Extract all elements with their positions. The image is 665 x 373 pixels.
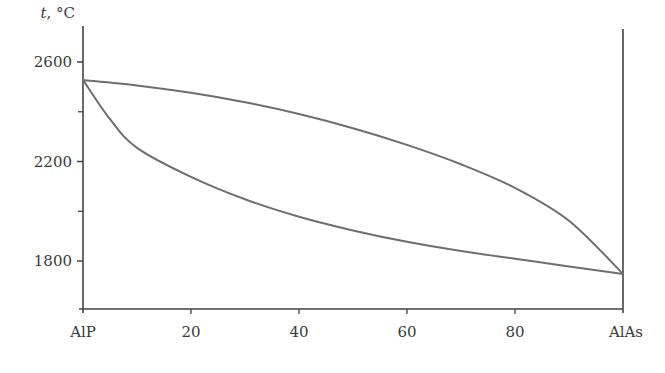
solidus-curve: [83, 80, 623, 274]
y-tick-label: 1800: [34, 252, 72, 270]
liquidus-curve: [83, 80, 623, 274]
phase-diagram-chart: 260022001800AlP20406080AlAst, °C: [0, 0, 665, 373]
y-axis-title: t, °C: [40, 4, 75, 22]
axes: [77, 26, 623, 314]
labels: 260022001800AlP20406080AlAst, °C: [34, 4, 643, 341]
x-tick-label: 60: [397, 323, 416, 341]
x-tick-label: 80: [505, 323, 524, 341]
x-tick-label: 20: [181, 323, 200, 341]
x-tick-label: AlP: [69, 323, 96, 341]
x-tick-label: 40: [289, 323, 308, 341]
x-tick-label: AlAs: [608, 323, 643, 341]
curves: [83, 80, 623, 274]
y-tick-label: 2200: [34, 153, 72, 171]
y-tick-label: 2600: [34, 53, 72, 71]
